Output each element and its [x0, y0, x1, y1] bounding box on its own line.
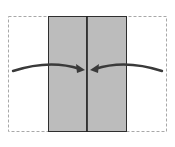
fold-diagram-canvas — [0, 0, 175, 147]
right-panel — [87, 17, 127, 132]
left-panel — [49, 17, 88, 132]
fold-diagram — [0, 0, 175, 147]
